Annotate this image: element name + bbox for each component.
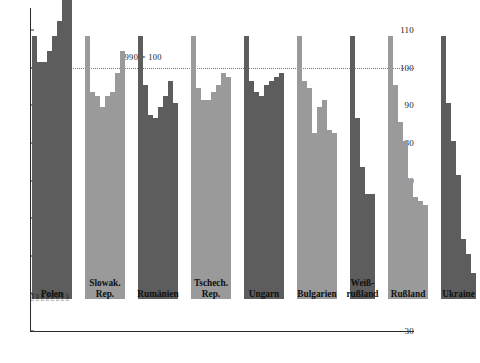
- bar-group-wei-ru-land: Weiß- rußland: [350, 0, 375, 299]
- bars: [350, 0, 375, 299]
- bar-group-ru-land: Rußland: [388, 0, 428, 299]
- bars: [441, 0, 476, 299]
- plot-area: 19901991199219931994199519961997PolenSlo…: [30, 0, 414, 331]
- bars: [244, 0, 284, 299]
- bar: [423, 205, 428, 299]
- bar: [279, 73, 284, 299]
- bars: [85, 0, 125, 299]
- bars: [297, 0, 337, 299]
- bar: [120, 51, 125, 299]
- bar-group-ungarn: Ungarn: [244, 0, 284, 299]
- bar: [226, 77, 231, 299]
- bars: [191, 0, 231, 299]
- bars: 19901991199219931994199519961997: [32, 0, 72, 299]
- bar: [173, 103, 178, 299]
- group-label: Ukraine: [428, 289, 480, 300]
- bar-group-tschech-rep: Tschech. Rep.: [191, 0, 231, 299]
- bar-group-rum-nien: Rumänien: [138, 0, 178, 299]
- bars: [388, 0, 428, 299]
- bar: [332, 133, 337, 299]
- x-axis-line: [30, 331, 414, 332]
- bar-group-slowak-rep: Slowak. Rep.: [85, 0, 125, 299]
- bar-group-ukraine: Ukraine: [441, 0, 476, 299]
- bar: 1997: [67, 0, 72, 299]
- bar-group-polen: 19901991199219931994199519961997Polen: [32, 0, 72, 299]
- bars: [138, 0, 178, 299]
- bar-group-bulgarien: Bulgarien: [297, 0, 337, 299]
